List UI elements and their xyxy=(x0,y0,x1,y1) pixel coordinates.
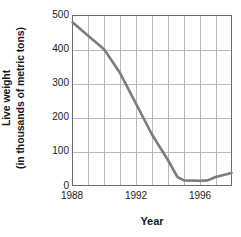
plot-area xyxy=(0,0,241,237)
vertical-gridlines xyxy=(89,16,217,186)
chart-figure: Live weight (in thousands of metric tons… xyxy=(0,0,241,237)
x-tick-label-1988: 1988 xyxy=(52,190,92,201)
x-axis-label: Year xyxy=(72,215,232,227)
x-tick-label-1992: 1992 xyxy=(116,190,156,201)
x-tick-label-1996: 1996 xyxy=(180,190,220,201)
